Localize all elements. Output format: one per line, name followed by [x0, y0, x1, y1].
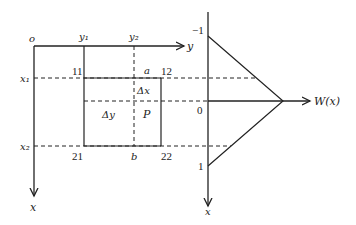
point-a-label: a — [144, 65, 150, 76]
corner-12-label: 12 — [161, 65, 172, 77]
corner-22-label: 22 — [161, 150, 172, 162]
y2-label: y₂ — [128, 31, 139, 42]
point-p-label: P — [142, 108, 151, 121]
diagram-canvas: o y x y₁ y₂ x₁ x₂ 11 12 21 22 a b Δx Δy … — [0, 0, 356, 225]
x-axis-label: x — [30, 201, 37, 214]
corner-11-label: 11 — [72, 65, 83, 77]
y-axis-label: y — [186, 40, 194, 53]
x2-label: x₂ — [20, 141, 30, 152]
corner-21-label: 21 — [72, 150, 83, 162]
w-axis-label: W(x) — [314, 95, 340, 108]
x1-label: x₁ — [20, 73, 30, 84]
right-plot — [208, 12, 310, 206]
right-x-axis-label: x — [205, 206, 211, 217]
y1-label: y₁ — [78, 31, 89, 42]
delta-y-label: Δy — [101, 109, 115, 120]
point-b-label: b — [131, 151, 137, 162]
tick-one-label: 1 — [198, 160, 204, 172]
tick-zero-label: 0 — [197, 104, 203, 116]
origin-label: o — [29, 33, 35, 44]
tick-minus-one-label: −1 — [192, 24, 204, 36]
delta-x-label: Δx — [136, 85, 150, 96]
